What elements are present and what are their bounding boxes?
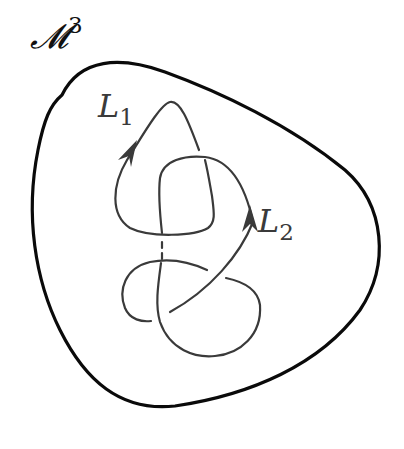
manifold-diagram bbox=[0, 0, 404, 449]
knot-l1-name: L bbox=[98, 87, 119, 125]
l1-orientation-arrow-icon bbox=[118, 140, 137, 167]
knot-l2-strand-diag bbox=[170, 222, 253, 312]
knot-l1-subscript: 1 bbox=[119, 104, 134, 130]
manifold-boundary bbox=[32, 62, 379, 406]
knot-lower-left-loop bbox=[122, 260, 207, 321]
knot-l2-subscript: 2 bbox=[279, 219, 294, 245]
knot-l2-name: L bbox=[258, 202, 279, 240]
knot-l1-label: L1 bbox=[98, 90, 134, 129]
knot-l2-label: L2 bbox=[258, 205, 294, 244]
manifold-dimension: 3 bbox=[68, 12, 83, 38]
manifold-label: 𝓜3 bbox=[30, 14, 83, 53]
manifold-symbol: 𝓜 bbox=[30, 16, 68, 56]
